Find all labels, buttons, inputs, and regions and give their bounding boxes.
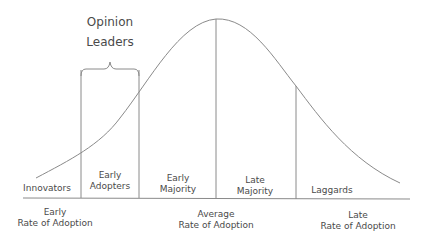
segment-laggards: Laggards <box>311 185 352 196</box>
adoption-curve-diagram: Opinion Leaders Innovators Early Adopter… <box>0 0 430 243</box>
opinion-leaders-line1: Opinion <box>86 13 133 31</box>
segment-early-majority: Early Majority <box>160 173 196 195</box>
axis-label-early: Early Rate of Adoption <box>17 207 92 229</box>
segment-late-majority: Late Majority <box>237 175 273 197</box>
axis-label-late: Late Rate of Adoption <box>320 210 395 232</box>
opinion-leaders-line2: Leaders <box>86 33 133 51</box>
segment-label: Innovators <box>23 183 71 194</box>
segment-label: Majority <box>160 184 196 195</box>
segment-label: Early <box>160 173 196 184</box>
segment-label: Adopters <box>90 181 130 192</box>
segment-innovators: Innovators <box>23 183 71 194</box>
axis-label-line1: Early <box>17 207 92 218</box>
axis-label-line2: Rate of Adoption <box>178 220 253 231</box>
axis-label-line2: Rate of Adoption <box>320 221 395 232</box>
segment-label: Late <box>237 175 273 186</box>
axis-label-line1: Average <box>178 209 253 220</box>
segment-label: Early <box>90 170 130 181</box>
segment-early-adopters: Early Adopters <box>90 170 130 192</box>
opinion-leaders-label: Opinion Leaders <box>86 13 133 51</box>
axis-label-line1: Late <box>320 210 395 221</box>
axis-label-line2: Rate of Adoption <box>17 218 92 229</box>
segment-label: Laggards <box>311 185 352 196</box>
baseline-axis <box>23 198 410 199</box>
opinion-leaders-bracket <box>81 62 139 76</box>
axis-label-average: Average Rate of Adoption <box>178 209 253 231</box>
segment-label: Majority <box>237 186 273 197</box>
